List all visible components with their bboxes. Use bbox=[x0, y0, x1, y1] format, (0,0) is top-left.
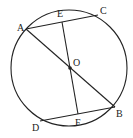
label-f: F bbox=[75, 117, 81, 128]
label-o: O bbox=[73, 57, 80, 68]
label-c: C bbox=[100, 5, 107, 16]
label-d: D bbox=[32, 122, 39, 133]
label-a: A bbox=[17, 22, 25, 33]
geometry-diagram: A E C O B D F bbox=[0, 0, 133, 138]
label-b: B bbox=[116, 108, 123, 119]
label-e: E bbox=[57, 8, 63, 19]
center-point-o bbox=[68, 66, 72, 70]
